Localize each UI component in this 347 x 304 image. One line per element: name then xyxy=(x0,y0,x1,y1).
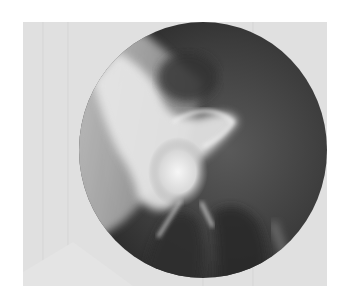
xray-image xyxy=(23,22,327,286)
xray-photo xyxy=(23,22,327,286)
